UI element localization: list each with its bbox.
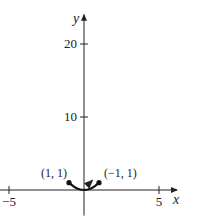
endpoint-marker <box>66 180 71 185</box>
endpoint-label: (1, 1) <box>41 166 67 180</box>
x-tick-label: −5 <box>2 194 16 209</box>
y-axis-label: y <box>71 11 80 26</box>
endpoint-marker <box>96 180 101 185</box>
y-tick-label: 10 <box>64 109 77 124</box>
y-tick-label: 20 <box>64 36 77 51</box>
chart: x y −551020 (1, 1)(−1, 1) <box>0 0 200 218</box>
x-tick-label: 5 <box>156 194 163 209</box>
x-axis-label: x <box>172 192 180 207</box>
direction-arrow <box>87 181 92 186</box>
endpoint-label: (−1, 1) <box>104 166 137 180</box>
